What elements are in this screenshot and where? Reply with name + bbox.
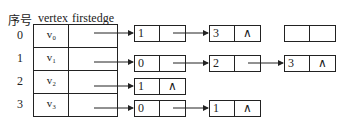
arrows	[0, 0, 348, 127]
